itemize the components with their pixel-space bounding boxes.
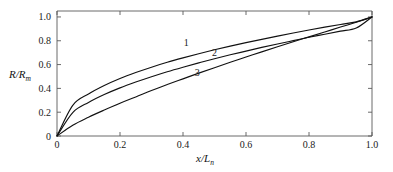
x-tick-label: 0.2	[114, 139, 127, 150]
curve-label-3: 3	[195, 67, 200, 78]
x-tick-label: 0.4	[177, 139, 190, 150]
x-axis-label-subscript: n	[210, 158, 214, 167]
x-tick-label: 0	[55, 139, 60, 150]
x-axis-label-main: x/L	[195, 152, 210, 164]
y-tick-label: 0.2	[39, 107, 52, 118]
x-tick-label: 0.8	[303, 139, 316, 150]
y-tick-label: 0	[46, 131, 51, 142]
y-tick-label: 0.6	[39, 59, 52, 70]
y-tick-label: 0.8	[39, 35, 52, 46]
y-tick-label: 0.4	[39, 83, 52, 94]
y-tick-label: 1.0	[39, 11, 52, 22]
x-tick-label: 1.0	[366, 139, 379, 150]
y-axis-label-subscript: m	[26, 74, 32, 83]
curve-label-1: 1	[184, 37, 189, 48]
x-tick-label: 0.6	[240, 139, 253, 150]
curve-label-2: 2	[212, 47, 217, 58]
chart-figure: 123 00.20.40.60.81.0 00.20.40.60.81.0 x/…	[0, 0, 393, 172]
y-axis-label-main: R/R	[8, 68, 26, 80]
